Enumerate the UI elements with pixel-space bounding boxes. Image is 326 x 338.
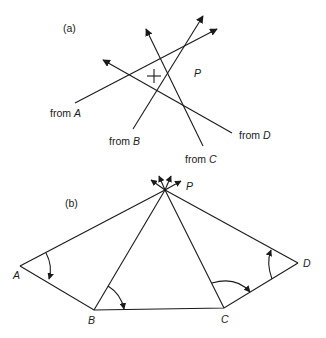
sight-line-c <box>165 190 224 308</box>
angle-arc-b <box>108 286 124 309</box>
panel-a-point-p: P <box>194 67 201 79</box>
ray-from-c <box>146 29 203 146</box>
panel-a-label: (a) <box>63 22 76 34</box>
label-from-c: from C <box>185 153 217 165</box>
panel-a: (a) P from A from B from C from D <box>50 16 271 165</box>
angle-arc-c <box>212 281 250 292</box>
panel-b-label: (b) <box>65 197 78 209</box>
vertex-label-a: A <box>12 269 20 281</box>
angle-arc-d <box>269 250 272 279</box>
vertex-label-b: B <box>88 314 95 326</box>
apex-label-p: P <box>186 180 193 192</box>
angle-arc-a <box>46 253 50 279</box>
diagram-canvas: (a) P from A from B from C from D (b) <box>0 0 326 338</box>
label-from-a: from A <box>50 107 81 119</box>
ray-from-b <box>133 16 203 129</box>
vertex-label-c: C <box>221 313 229 325</box>
sight-line-d <box>165 190 298 263</box>
traverse-line <box>20 263 298 310</box>
cross-marker-icon <box>147 69 161 83</box>
apex-arrows-icon <box>151 176 181 190</box>
label-from-d: from D <box>239 129 271 141</box>
panel-b: (b) P A B C D <box>12 176 311 326</box>
sight-line-a <box>20 190 165 266</box>
label-from-b: from B <box>109 135 140 147</box>
ray-from-a <box>75 29 217 103</box>
vertex-label-d: D <box>303 257 311 269</box>
diagram-svg: (a) P from A from B from C from D (b) <box>0 0 326 338</box>
ray-from-d <box>103 60 232 133</box>
